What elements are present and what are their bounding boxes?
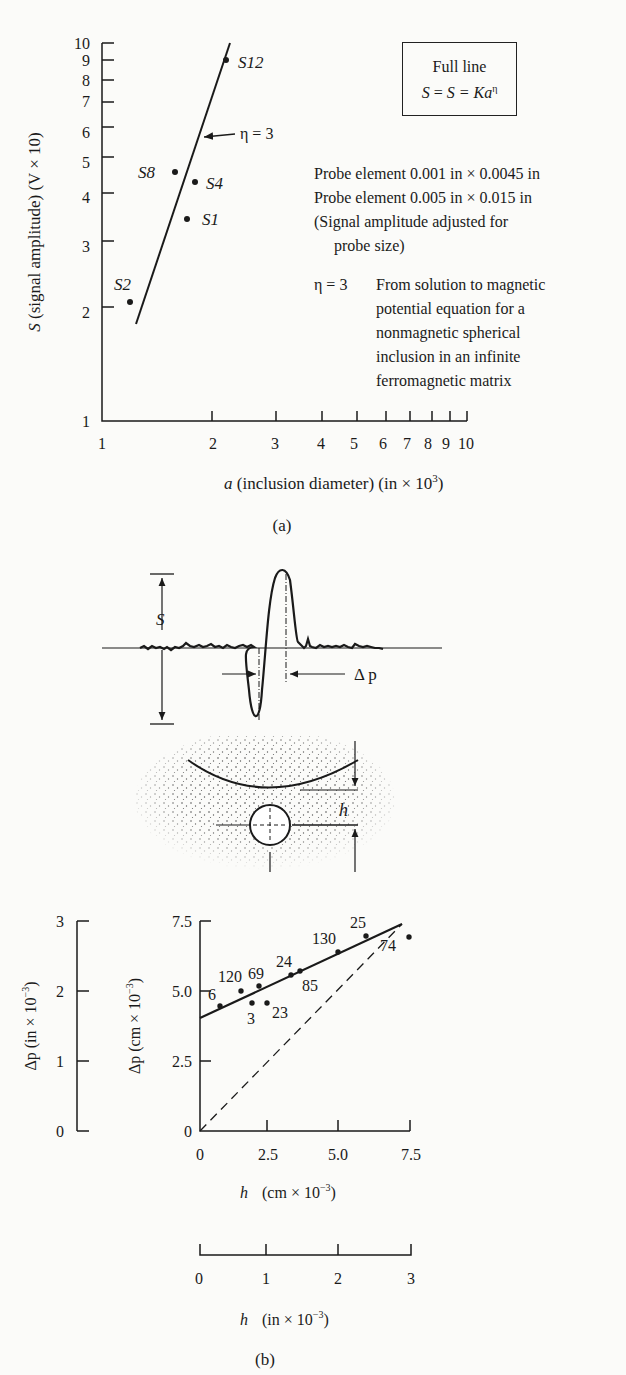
point-3 [249,1000,254,1005]
y-tick: 5 [82,154,90,171]
point-6 [217,1003,222,1008]
y-tick: 8 [82,72,90,89]
probe-note-4: probe size) [334,236,405,255]
probe-note-2: Probe element 0.005 in × 0.015 in [314,188,532,207]
panel-b-y-tick-labels-in: 3 2 1 0 [56,913,64,1140]
y-tick: 6 [82,124,90,141]
y-tick: 1 [56,1053,64,1070]
panel-b-x-tick-labels-cm: 0 2.5 5.0 7.5 [196,1146,421,1163]
panel-b-x-axis-title-cm: h(cm × 10−3) [240,1182,336,1202]
panel-a-y-tick-labels: 10 9 8 7 6 5 4 3 2 1 [74,35,90,430]
x-tick: 8 [424,435,432,452]
y-tick: 7 [82,93,90,110]
x-tick: 0 [195,1270,203,1287]
point-label: 6 [208,986,216,1003]
label-S2: S2 [114,275,132,294]
point-25 [363,933,368,938]
legend-equation: S = S = Kaη [403,78,516,104]
y-tick: 0 [184,1123,192,1140]
y-tick: 0 [56,1123,64,1140]
point-24 [288,972,293,977]
panel-a-x-axis-title: a (inclusion diameter) (in × 103) [224,472,444,493]
panel-b-y-axis-title-in: Δp (in × 10−3) [20,981,40,1070]
point-label: 23 [272,1004,288,1021]
y-tick: 9 [82,52,90,69]
y-tick: 5.0 [172,983,192,1000]
panel-b-axes [200,921,410,1131]
figure-canvas: 10 9 8 7 6 5 4 3 2 1 1 2 3 4 5 6 7 8 9 1… [0,0,626,1375]
signal-waveform [140,570,383,716]
x-tick: 6 [379,435,387,452]
x-tick: 5.0 [328,1146,348,1163]
panel-b-reference-line [200,924,402,1131]
x-tick: 9 [442,435,450,452]
x-tick: 0 [196,1146,204,1163]
y-tick: 4 [82,189,90,206]
eta-arrow-label: η = 3 [240,125,273,143]
x-tick: 3 [407,1270,415,1287]
panel-a-caption: (a) [273,516,292,535]
h-label: h [339,800,348,820]
label-S4: S4 [206,174,224,193]
y-tick: 3 [56,913,64,930]
point-S8 [172,169,178,175]
probe-note-1: Probe element 0.001 in × 0.0045 in [314,164,540,183]
eta-note-2: potential equation for a [376,299,525,318]
signal-dp-label: Δ p [354,665,377,684]
point-label: 74 [380,937,396,954]
label-S12: S12 [238,53,264,72]
label-S1: S1 [202,210,219,229]
point-120 [238,988,243,993]
x-tick: 4 [317,435,325,452]
label-S8: S8 [138,163,156,182]
panel-b-caption: (b) [255,1350,275,1369]
panel-a-y-axis-title: S (signal amplitude) (V × 10) [25,132,44,332]
signal-trace-diagram: S Δ p [102,570,442,724]
y-tick: 2.5 [172,1053,192,1070]
legend-equation-text: S = Ka [447,84,492,101]
eta-note-4: inclusion in an infinite [376,347,520,366]
probe-note-3: (Signal amplitude adjusted for [314,212,508,231]
x-tick: 7.5 [401,1146,421,1163]
x-tick: 2.5 [258,1146,278,1163]
point-85 [297,968,302,973]
eta-note-5: ferromagnetic matrix [376,371,512,390]
point-S4 [192,179,198,185]
point-74 [406,934,411,939]
panel-b-chart: 3 2 1 0 Δp (in × 10−3) 7.5 5.0 2.5 0 Δp … [20,913,421,1369]
y-tick: 10 [74,35,90,52]
y-tick: 1 [82,413,90,430]
y-tick: 7.5 [172,913,192,930]
x-tick: 3 [271,435,279,452]
x-tick: 1 [98,435,106,452]
eta-note-3: nonmagnetic spherical [376,323,520,342]
point-label: 24 [276,953,292,970]
point-label: 120 [218,968,242,985]
equation-legend-box: Full line S = S = Kaη [402,42,517,116]
x-tick: 2 [334,1270,342,1287]
panel-b-y-tick-labels-cm: 7.5 5.0 2.5 0 [172,913,192,1140]
panel-b-x-axis-title-in: h(in × 10−3) [240,1309,329,1329]
y-tick: 3 [82,238,90,255]
x-tick: 5 [350,435,358,452]
y-tick: 2 [82,304,90,321]
panel-a-x-tick-labels: 1 2 3 4 5 6 7 8 9 10 [98,435,474,452]
point-label: 85 [302,977,318,994]
probe-inclusion-diagram: h [135,735,405,875]
panel-b-y-axis-title-cm: Δp (cm × 10−3) [124,978,144,1074]
x-tick: 1 [262,1270,270,1287]
y-tick: 2 [56,983,64,1000]
legend-eta-sup: η [492,83,497,94]
x-tick: 10 [458,435,474,452]
point-label: 130 [312,930,336,947]
x-tick: 7 [403,435,411,452]
point-S1 [184,216,190,222]
point-label: 25 [350,914,366,931]
point-130 [335,949,340,954]
eta-note-1: From solution to magnetic [376,275,545,294]
legend-line-1: Full line [403,56,516,78]
x-tick: 2 [209,435,217,452]
signal-S-label: S [156,610,165,629]
panel-b-x-axis-in [200,1244,411,1255]
eta-key: η = 3 [314,275,347,294]
